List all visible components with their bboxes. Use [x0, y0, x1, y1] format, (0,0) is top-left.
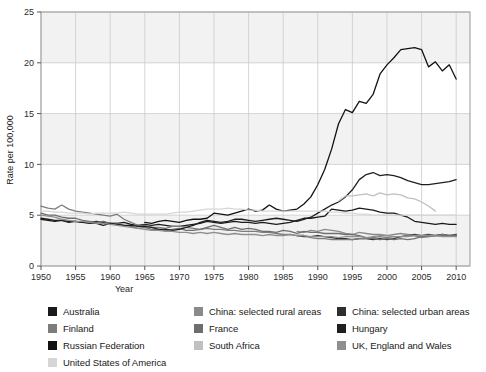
line-chart-svg: 0510152025 19501955196019651970197519801…: [0, 0, 486, 296]
svg-text:20: 20: [24, 58, 34, 68]
legend-label: South Africa: [209, 340, 260, 351]
svg-text:1960: 1960: [100, 272, 120, 282]
legend-label: Hungary: [352, 323, 388, 334]
legend-label: China: selected urban areas: [352, 306, 469, 317]
y-axis-title: Rate per 100,000: [5, 115, 15, 185]
svg-text:15: 15: [24, 109, 34, 119]
svg-text:2000: 2000: [377, 272, 397, 282]
svg-text:0: 0: [29, 261, 34, 271]
x-axis-title: Year: [115, 284, 133, 294]
legend-item[interactable]: China: selected rural areas: [194, 303, 337, 320]
background-bands: [41, 12, 470, 266]
y-axis-ticks: 0510152025: [24, 7, 41, 271]
legend-swatch: [48, 307, 57, 316]
legend-label: Finland: [63, 323, 94, 334]
legend-label: Australia: [63, 306, 100, 317]
legend-item[interactable]: France: [194, 320, 337, 337]
chart-legend: AustraliaChina: selected rural areasChin…: [48, 303, 478, 371]
legend-item[interactable]: South Africa: [194, 337, 337, 354]
svg-text:1990: 1990: [308, 272, 328, 282]
svg-text:1970: 1970: [169, 272, 189, 282]
legend-swatch: [337, 341, 346, 350]
svg-text:1955: 1955: [66, 272, 86, 282]
svg-text:2010: 2010: [446, 272, 466, 282]
svg-text:1975: 1975: [204, 272, 224, 282]
svg-text:5: 5: [29, 210, 34, 220]
legend-label: UK, England and Wales: [352, 340, 451, 351]
svg-text:10: 10: [24, 160, 34, 170]
legend-item[interactable]: UK, England and Wales: [337, 337, 478, 354]
legend-swatch: [194, 307, 203, 316]
legend-swatch: [194, 341, 203, 350]
legend-item[interactable]: Finland: [48, 320, 194, 337]
legend-swatch: [48, 324, 57, 333]
legend-item[interactable]: Russian Federation: [48, 337, 194, 354]
svg-text:2005: 2005: [412, 272, 432, 282]
legend-label: United States of America: [63, 357, 166, 368]
legend-label: China: selected rural areas: [209, 306, 321, 317]
svg-text:1965: 1965: [135, 272, 155, 282]
legend-swatch: [48, 358, 57, 367]
svg-text:1980: 1980: [239, 272, 259, 282]
chart-plot-area: 0510152025 19501955196019651970197519801…: [0, 0, 486, 296]
legend-swatch: [337, 307, 346, 316]
legend-label: Russian Federation: [63, 340, 144, 351]
legend-label: France: [209, 323, 238, 334]
chart-figure: 0510152025 19501955196019651970197519801…: [0, 0, 486, 372]
legend-swatch: [337, 324, 346, 333]
svg-text:1985: 1985: [273, 272, 293, 282]
legend-grid: AustraliaChina: selected rural areasChin…: [48, 303, 478, 371]
legend-item[interactable]: China: selected urban areas: [337, 303, 478, 320]
svg-text:1950: 1950: [31, 272, 51, 282]
legend-item[interactable]: Hungary: [337, 320, 478, 337]
legend-swatch: [48, 341, 57, 350]
svg-text:1995: 1995: [342, 272, 362, 282]
legend-item[interactable]: Australia: [48, 303, 194, 320]
svg-text:25: 25: [24, 7, 34, 17]
legend-item[interactable]: United States of America: [48, 354, 194, 371]
legend-swatch: [194, 324, 203, 333]
x-axis-ticks: 1950195519601965197019751980198519901995…: [31, 266, 466, 282]
